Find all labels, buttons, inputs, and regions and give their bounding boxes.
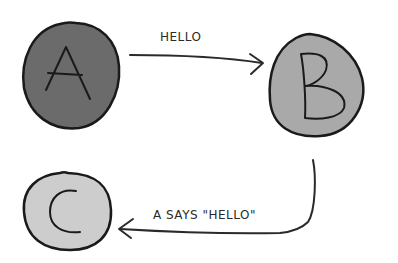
edge-a-to-b: HELLO <box>130 30 263 74</box>
edge-b-to-c: A SAYS "HELLO" <box>119 160 315 238</box>
edge-b-to-c-label: A SAYS "HELLO" <box>153 208 256 222</box>
diagram-canvas: A B C HELLO A SAYS "HELLO" <box>0 0 398 263</box>
arrowhead-right-icon <box>250 54 263 74</box>
node-a: A <box>23 22 119 128</box>
edge-b-to-c-line <box>120 160 315 233</box>
node-c-circle <box>24 172 111 250</box>
node-b: B <box>270 34 364 136</box>
node-c: C <box>24 172 111 250</box>
edge-a-to-b-label: HELLO <box>160 30 202 44</box>
edge-a-to-b-line <box>130 55 262 63</box>
